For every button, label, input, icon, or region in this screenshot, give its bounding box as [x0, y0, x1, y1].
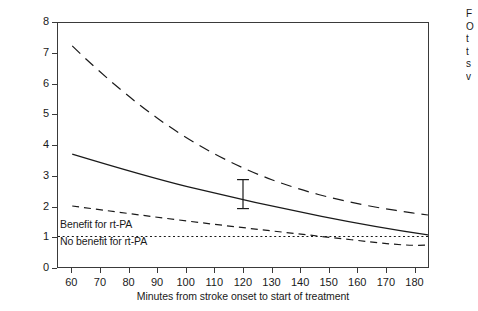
x-axis: 60 70 80 90 100 110 120 130 [57, 268, 429, 308]
y-tick-label-3: 3 [43, 168, 49, 183]
curve-upper-ci [72, 46, 428, 215]
y-tick-7: 7 [0, 53, 57, 54]
x-tick-mark [157, 268, 158, 273]
x-tick-mark [71, 268, 72, 273]
y-axis: 8 7 6 5 4 3 2 1 [0, 22, 57, 268]
y-tick-8: 8 [0, 22, 57, 23]
x-tick-mark [272, 268, 273, 273]
x-tick-label-100: 100 [172, 275, 200, 289]
x-tick-mark [214, 268, 215, 273]
y-tick-label-5: 5 [43, 106, 49, 121]
x-tick-mark [100, 268, 101, 273]
side-caption-line-3: t [466, 33, 478, 46]
y-tick-1: 1 [0, 237, 57, 238]
x-tick-label-90: 90 [143, 275, 171, 289]
x-tick-label-140: 140 [286, 275, 314, 289]
y-tick-label-6: 6 [43, 76, 49, 91]
plot-area [57, 22, 429, 268]
x-tick-mark [357, 268, 358, 273]
y-tick-label-8: 8 [43, 14, 49, 29]
y-axis-title: Odds ratio for favorable outcome at 3 mo… [0, 0, 3, 4]
figure-odds-ratio-vs-time: Odds ratio for favorable outcome at 3 mo… [0, 0, 478, 311]
y-tick-label-7: 7 [43, 45, 49, 60]
side-caption-line-6: v [466, 71, 478, 84]
x-tick-mark [129, 268, 130, 273]
x-tick-label-110: 110 [200, 275, 228, 289]
y-tick-0: 0 [0, 268, 57, 269]
x-tick-label-120: 120 [229, 275, 257, 289]
y-tick-5: 5 [0, 114, 57, 115]
side-caption-clipped: F O t t s v [466, 8, 478, 84]
x-tick-label-70: 70 [86, 275, 114, 289]
x-tick-label-160: 160 [343, 275, 371, 289]
x-tick-mark [186, 268, 187, 273]
side-caption-line-2: O [466, 21, 478, 34]
side-caption-line-1: F [466, 8, 478, 21]
x-tick-label-60: 60 [57, 275, 85, 289]
x-axis-title: Minutes from stroke onset to start of tr… [57, 290, 429, 302]
x-tick-mark [300, 268, 301, 273]
y-tick-6: 6 [0, 84, 57, 85]
side-caption-line-5: s [466, 58, 478, 71]
y-tick-label-0: 0 [43, 260, 49, 275]
x-tick-label-130: 130 [258, 275, 286, 289]
x-tick-mark [243, 268, 244, 273]
error-bar-120min [237, 180, 249, 209]
x-tick-mark [329, 268, 330, 273]
side-caption-line-4: t [466, 46, 478, 59]
y-tick-label-4: 4 [43, 137, 49, 152]
annotation-no-benefit-for-rtpa: No benefit for rt-PA [60, 235, 147, 248]
y-tick-3: 3 [0, 176, 57, 177]
x-tick-label-180: 180 [401, 275, 429, 289]
y-tick-4: 4 [0, 145, 57, 146]
x-tick-mark [415, 268, 416, 273]
x-tick-label-150: 150 [315, 275, 343, 289]
y-tick-label-1: 1 [43, 229, 49, 244]
x-tick-label-170: 170 [372, 275, 400, 289]
y-tick-2: 2 [0, 207, 57, 208]
x-tick-mark [386, 268, 387, 273]
x-tick-label-80: 80 [115, 275, 143, 289]
y-tick-label-2: 2 [43, 199, 49, 214]
annotation-benefit-for-rtpa: Benefit for rt-PA [60, 218, 132, 231]
